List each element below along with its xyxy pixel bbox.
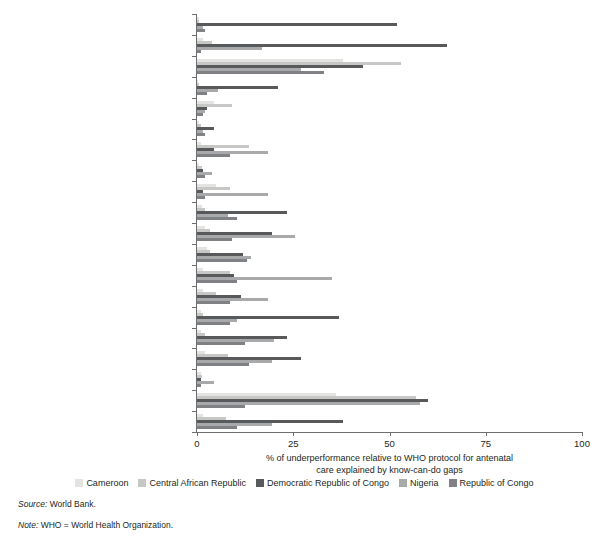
source-label: Source:	[18, 499, 47, 509]
legend-swatch-icon	[449, 479, 457, 487]
bar	[197, 384, 201, 387]
legend-item[interactable]: Cameroon	[75, 478, 128, 488]
bar	[197, 133, 205, 136]
y-axis-tick	[192, 244, 196, 245]
legend-item[interactable]: Nigeria	[399, 478, 439, 488]
y-axis-tick	[192, 307, 196, 308]
bar	[197, 50, 201, 53]
bar	[197, 23, 397, 26]
legend-label: Democratic Republic of Congo	[267, 478, 389, 488]
source-note: Source: World Bank.	[18, 500, 173, 509]
bar	[197, 259, 247, 262]
legend-swatch-icon	[256, 479, 264, 487]
source-value: World Bank.	[47, 499, 96, 509]
y-axis-tick	[192, 369, 196, 370]
definition-note: Note: WHO = World Health Organization.	[18, 521, 173, 530]
plot-region	[197, 14, 582, 432]
bar	[197, 113, 203, 116]
x-axis-tick-label: 50	[384, 438, 395, 449]
legend-label: Republic of Congo	[460, 478, 534, 488]
y-axis-tick	[192, 14, 196, 15]
bar	[197, 342, 245, 345]
bar	[197, 175, 205, 178]
bar	[197, 92, 207, 95]
x-axis-tick	[197, 432, 198, 436]
x-axis-tick-label: 75	[480, 438, 491, 449]
x-axis-tick	[582, 432, 583, 436]
x-axis-title-line-1: % of underperformance relative to WHO pr…	[197, 452, 582, 464]
bar	[197, 217, 237, 220]
y-axis-tick	[192, 202, 196, 203]
y-axis-tick	[192, 432, 196, 433]
bar	[197, 47, 262, 50]
bar	[197, 301, 230, 304]
x-axis-tick-label: 100	[574, 438, 590, 449]
chart-legend: CameroonCentral African RepublicDemocrat…	[0, 477, 609, 488]
x-axis-tick	[293, 432, 294, 436]
y-axis-tick	[192, 98, 196, 99]
x-axis-title-line-2: care explained by know-can-do gaps	[197, 464, 582, 476]
legend-label: Nigeria	[410, 478, 439, 488]
bar	[197, 193, 268, 196]
legend-label: Cameroon	[86, 478, 128, 488]
legend-label: Central African Republic	[149, 478, 246, 488]
y-axis-tick	[192, 77, 196, 78]
y-axis-tick	[192, 139, 196, 140]
bar	[197, 71, 324, 74]
x-axis-tick-label: 25	[288, 438, 299, 449]
y-axis-tick	[192, 160, 196, 161]
x-axis-tick	[390, 432, 391, 436]
bar	[197, 426, 237, 429]
y-axis-tick	[192, 390, 196, 391]
bar	[197, 322, 230, 325]
y-axis-tick	[192, 56, 196, 57]
bar	[197, 405, 245, 408]
legend-item[interactable]: Central African Republic	[138, 478, 246, 488]
y-axis-tick	[192, 328, 196, 329]
note-label: Note:	[18, 520, 38, 530]
y-axis-tick	[192, 223, 196, 224]
bar	[197, 363, 249, 366]
bar	[197, 238, 232, 241]
bar	[197, 29, 205, 32]
x-axis-tick-label: 0	[194, 438, 199, 449]
bar	[197, 280, 237, 283]
y-axis-tick	[192, 411, 196, 412]
bar	[197, 196, 205, 199]
x-axis-tick	[486, 432, 487, 436]
legend-item[interactable]: Democratic Republic of Congo	[256, 478, 389, 488]
legend-swatch-icon	[138, 479, 146, 487]
y-axis-tick	[192, 286, 196, 287]
chart-footnotes: Source: World Bank. Note: WHO = World He…	[18, 500, 173, 543]
y-axis-tick	[192, 35, 196, 36]
legend-item[interactable]: Republic of Congo	[449, 478, 534, 488]
y-axis-tick	[192, 265, 196, 266]
chart-area: 0255075100 % of underperformance relativ…	[0, 0, 609, 470]
note-value: WHO = World Health Organization.	[38, 520, 173, 530]
y-axis-tick	[192, 119, 196, 120]
y-axis-tick	[192, 348, 196, 349]
x-axis-title: % of underperformance relative to WHO pr…	[197, 452, 582, 476]
legend-swatch-icon	[399, 479, 407, 487]
legend-swatch-icon	[75, 479, 83, 487]
bar	[197, 154, 230, 157]
y-axis-tick	[192, 181, 196, 182]
